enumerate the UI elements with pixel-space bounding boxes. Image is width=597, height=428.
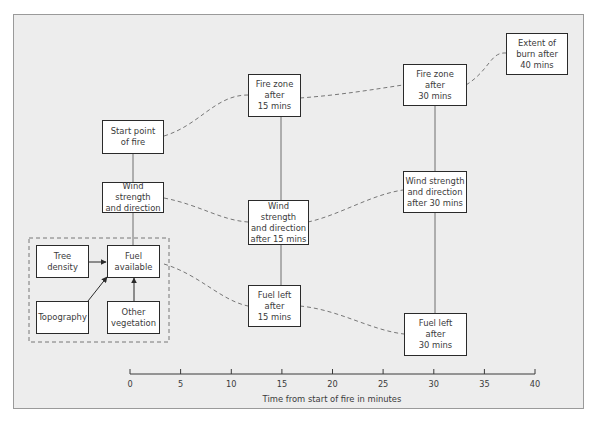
node-fire-zone-30: Fire zone after 30 mins <box>403 64 467 106</box>
node-extent-40: Extent of burn after 40 mins <box>506 33 568 75</box>
node-other-vegetation: Other vegetation <box>107 301 160 334</box>
node-fuel-left-15: Fuel left after 15 mins <box>248 285 301 327</box>
node-start-point: Start point of fire <box>102 120 164 154</box>
tick-label: 15 <box>277 379 287 389</box>
axis-title: Time from start of fire in minutes <box>263 394 402 404</box>
node-wind-30: Wind strength and direction after 30 min… <box>403 171 467 213</box>
node-wind-initial: Wind strength and direction <box>102 182 164 213</box>
node-topography: Topography <box>36 301 89 334</box>
node-fuel-available: Fuel available <box>107 245 160 278</box>
tick-label: 25 <box>378 379 388 389</box>
tick-label: 30 <box>429 379 439 389</box>
node-fire-zone-15: Fire zone after 15 mins <box>248 74 301 117</box>
tick-label: 35 <box>479 379 489 389</box>
tick-label: 0 <box>127 379 132 389</box>
tick-label: 20 <box>327 379 337 389</box>
node-wind-15: Wind strength and direction after 15 min… <box>248 200 309 245</box>
tick-label: 10 <box>226 379 236 389</box>
tick-label: 40 <box>530 379 540 389</box>
tick-label: 5 <box>178 379 183 389</box>
node-tree-density: Tree density <box>36 245 89 278</box>
node-fuel-left-30: Fuel left after 30 mins <box>404 313 467 356</box>
